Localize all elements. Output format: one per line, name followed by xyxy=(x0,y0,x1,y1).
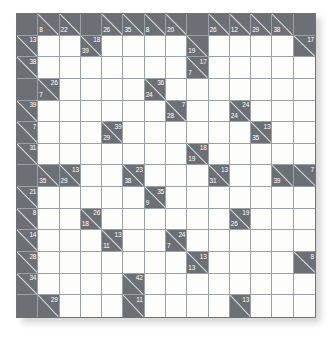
kakuro-entry-cell[interactable] xyxy=(251,274,272,296)
kakuro-entry-cell[interactable] xyxy=(230,122,251,144)
kakuro-entry-cell[interactable] xyxy=(145,230,166,252)
kakuro-entry-cell[interactable] xyxy=(209,230,230,252)
kakuro-entry-cell[interactable] xyxy=(60,122,81,144)
kakuro-entry-cell[interactable] xyxy=(102,187,123,209)
kakuro-entry-cell[interactable] xyxy=(123,36,144,58)
kakuro-entry-cell[interactable] xyxy=(145,295,166,317)
kakuro-entry-cell[interactable] xyxy=(272,295,293,317)
kakuro-entry-cell[interactable] xyxy=(272,274,293,296)
kakuro-entry-cell[interactable] xyxy=(123,79,144,101)
kakuro-entry-cell[interactable] xyxy=(81,274,102,296)
kakuro-entry-cell[interactable] xyxy=(294,230,315,252)
kakuro-entry-cell[interactable] xyxy=(294,101,315,123)
kakuro-entry-cell[interactable] xyxy=(38,274,59,296)
kakuro-entry-cell[interactable] xyxy=(123,252,144,274)
kakuro-entry-cell[interactable] xyxy=(145,57,166,79)
kakuro-entry-cell[interactable] xyxy=(60,295,81,317)
kakuro-entry-cell[interactable] xyxy=(251,101,272,123)
kakuro-entry-cell[interactable] xyxy=(102,252,123,274)
kakuro-entry-cell[interactable] xyxy=(123,144,144,166)
kakuro-entry-cell[interactable] xyxy=(187,101,208,123)
kakuro-entry-cell[interactable] xyxy=(38,230,59,252)
kakuro-entry-cell[interactable] xyxy=(166,144,187,166)
kakuro-entry-cell[interactable] xyxy=(272,230,293,252)
kakuro-entry-cell[interactable] xyxy=(187,79,208,101)
kakuro-entry-cell[interactable] xyxy=(38,144,59,166)
kakuro-entry-cell[interactable] xyxy=(60,101,81,123)
kakuro-entry-cell[interactable] xyxy=(251,209,272,231)
kakuro-entry-cell[interactable] xyxy=(145,274,166,296)
kakuro-entry-cell[interactable] xyxy=(187,187,208,209)
kakuro-entry-cell[interactable] xyxy=(251,144,272,166)
kakuro-entry-cell[interactable] xyxy=(209,57,230,79)
kakuro-entry-cell[interactable] xyxy=(272,187,293,209)
kakuro-entry-cell[interactable] xyxy=(145,209,166,231)
kakuro-entry-cell[interactable] xyxy=(38,57,59,79)
kakuro-entry-cell[interactable] xyxy=(230,230,251,252)
kakuro-entry-cell[interactable] xyxy=(81,57,102,79)
kakuro-entry-cell[interactable] xyxy=(166,252,187,274)
kakuro-entry-cell[interactable] xyxy=(230,57,251,79)
kakuro-entry-cell[interactable] xyxy=(272,209,293,231)
kakuro-entry-cell[interactable] xyxy=(209,122,230,144)
kakuro-entry-cell[interactable] xyxy=(102,79,123,101)
kakuro-entry-cell[interactable] xyxy=(294,295,315,317)
kakuro-entry-cell[interactable] xyxy=(187,274,208,296)
kakuro-entry-cell[interactable] xyxy=(38,36,59,58)
kakuro-entry-cell[interactable] xyxy=(145,36,166,58)
kakuro-entry-cell[interactable] xyxy=(272,144,293,166)
kakuro-entry-cell[interactable] xyxy=(294,274,315,296)
kakuro-entry-cell[interactable] xyxy=(60,230,81,252)
kakuro-entry-cell[interactable] xyxy=(145,252,166,274)
kakuro-entry-cell[interactable] xyxy=(81,165,102,187)
kakuro-entry-cell[interactable] xyxy=(145,165,166,187)
kakuro-entry-cell[interactable] xyxy=(294,144,315,166)
kakuro-entry-cell[interactable] xyxy=(230,187,251,209)
kakuro-entry-cell[interactable] xyxy=(272,101,293,123)
kakuro-entry-cell[interactable] xyxy=(166,79,187,101)
kakuro-entry-cell[interactable] xyxy=(230,36,251,58)
kakuro-entry-cell[interactable] xyxy=(81,252,102,274)
kakuro-entry-cell[interactable] xyxy=(209,144,230,166)
kakuro-entry-cell[interactable] xyxy=(209,187,230,209)
kakuro-entry-cell[interactable] xyxy=(60,274,81,296)
kakuro-entry-cell[interactable] xyxy=(145,144,166,166)
kakuro-entry-cell[interactable] xyxy=(166,295,187,317)
kakuro-entry-cell[interactable] xyxy=(166,57,187,79)
kakuro-entry-cell[interactable] xyxy=(60,187,81,209)
kakuro-entry-cell[interactable] xyxy=(60,144,81,166)
kakuro-entry-cell[interactable] xyxy=(294,187,315,209)
kakuro-grid[interactable]: 8222635820261229381318391917381772673624… xyxy=(16,13,316,318)
kakuro-entry-cell[interactable] xyxy=(81,187,102,209)
kakuro-entry-cell[interactable] xyxy=(123,230,144,252)
kakuro-entry-cell[interactable] xyxy=(166,122,187,144)
kakuro-entry-cell[interactable] xyxy=(38,101,59,123)
kakuro-entry-cell[interactable] xyxy=(272,57,293,79)
kakuro-entry-cell[interactable] xyxy=(102,144,123,166)
kakuro-entry-cell[interactable] xyxy=(187,230,208,252)
kakuro-entry-cell[interactable] xyxy=(102,36,123,58)
kakuro-entry-cell[interactable] xyxy=(38,209,59,231)
kakuro-entry-cell[interactable] xyxy=(187,122,208,144)
kakuro-entry-cell[interactable] xyxy=(81,230,102,252)
kakuro-entry-cell[interactable] xyxy=(187,295,208,317)
kakuro-entry-cell[interactable] xyxy=(60,57,81,79)
kakuro-entry-cell[interactable] xyxy=(272,79,293,101)
kakuro-entry-cell[interactable] xyxy=(251,230,272,252)
kakuro-entry-cell[interactable] xyxy=(251,79,272,101)
kakuro-entry-cell[interactable] xyxy=(209,36,230,58)
kakuro-entry-cell[interactable] xyxy=(123,122,144,144)
kakuro-entry-cell[interactable] xyxy=(294,122,315,144)
kakuro-entry-cell[interactable] xyxy=(294,79,315,101)
kakuro-entry-cell[interactable] xyxy=(81,295,102,317)
kakuro-entry-cell[interactable] xyxy=(230,79,251,101)
kakuro-entry-cell[interactable] xyxy=(102,274,123,296)
kakuro-entry-cell[interactable] xyxy=(102,101,123,123)
kakuro-entry-cell[interactable] xyxy=(123,57,144,79)
kakuro-entry-cell[interactable] xyxy=(81,122,102,144)
kakuro-entry-cell[interactable] xyxy=(102,209,123,231)
kakuro-entry-cell[interactable] xyxy=(102,57,123,79)
kakuro-entry-cell[interactable] xyxy=(251,187,272,209)
kakuro-entry-cell[interactable] xyxy=(166,187,187,209)
kakuro-entry-cell[interactable] xyxy=(230,144,251,166)
